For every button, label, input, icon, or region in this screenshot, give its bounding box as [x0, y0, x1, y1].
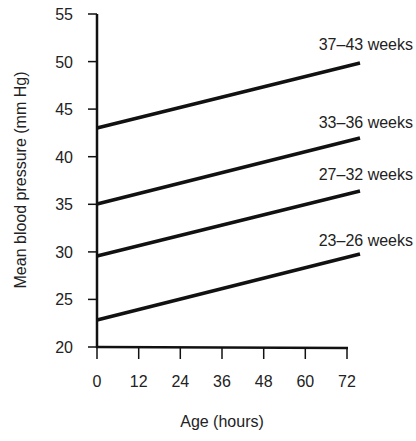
y-tick-label: 25 [55, 291, 73, 308]
line-chart: 55 50 45 40 35 30 25 20 Mean blood press… [0, 0, 416, 441]
y-tick-label: 50 [55, 54, 73, 71]
series-label-37-43-weeks: 37–43 weeks [319, 36, 413, 53]
y-axis-title: Mean blood pressure (mm Hg) [12, 72, 29, 289]
x-tick-label: 60 [296, 373, 314, 390]
x-tick-label: 36 [213, 373, 231, 390]
x-axis: 0 12 24 36 48 60 72 Age (hours) [93, 347, 356, 430]
series-label-23-26-weeks: 23–26 weeks [319, 232, 413, 249]
x-tick-label: 12 [130, 373, 148, 390]
x-tick-label: 48 [255, 373, 273, 390]
y-tick-label: 55 [55, 6, 73, 23]
y-tick-label: 40 [55, 149, 73, 166]
y-tick-label: 30 [55, 244, 73, 261]
y-tick-label: 35 [55, 196, 73, 213]
series-lines [97, 63, 360, 320]
series-line-23-26-weeks [97, 254, 360, 320]
y-tick-label: 20 [55, 339, 73, 356]
x-tick-label: 0 [93, 373, 102, 390]
y-tick-label: 45 [55, 101, 73, 118]
y-axis: 55 50 45 40 35 30 25 20 Mean blood press… [12, 6, 97, 356]
series-label-33-36-weeks: 33–36 weeks [319, 114, 413, 131]
series-label-27-32-weeks: 27–32 weeks [319, 166, 413, 183]
x-tick-label: 72 [338, 373, 356, 390]
x-tick-label: 24 [171, 373, 189, 390]
x-axis-title: Age (hours) [180, 413, 264, 430]
